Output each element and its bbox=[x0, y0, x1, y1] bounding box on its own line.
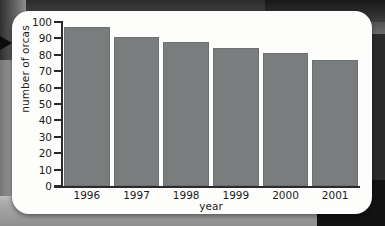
bar-1996[interactable] bbox=[64, 27, 110, 186]
y-tick-label: 30 bbox=[26, 132, 52, 142]
y-tick-label: 60 bbox=[26, 83, 52, 93]
x-axis-title: year bbox=[62, 200, 360, 212]
bar-slot bbox=[261, 22, 311, 186]
bar-slot bbox=[112, 22, 162, 186]
y-tick-label: 70 bbox=[26, 66, 52, 76]
bar-slot bbox=[211, 22, 261, 186]
y-tick-label: 80 bbox=[26, 50, 52, 60]
bar-1999[interactable] bbox=[213, 48, 259, 186]
bar-chart-card: number of orcas 1009080706050403020100 1… bbox=[12, 11, 372, 214]
bar-series bbox=[62, 22, 360, 186]
bar-1998[interactable] bbox=[163, 42, 209, 186]
y-tick-label: 90 bbox=[26, 33, 52, 43]
y-tick-label: 40 bbox=[26, 115, 52, 125]
right-arrow-icon bbox=[0, 36, 12, 50]
bar-slot bbox=[310, 22, 360, 186]
x-axis-line bbox=[54, 186, 360, 188]
bar-1997[interactable] bbox=[114, 37, 160, 186]
screenshot-root: number of orcas 1009080706050403020100 1… bbox=[0, 0, 385, 226]
y-tick-label: 100 bbox=[26, 17, 52, 27]
y-tick-label: 10 bbox=[26, 165, 52, 175]
bar-2001[interactable] bbox=[312, 60, 358, 186]
y-tick-label: 20 bbox=[26, 148, 52, 158]
bar-slot bbox=[62, 22, 112, 186]
y-axis-ticks: 1009080706050403020100 bbox=[12, 11, 52, 214]
chart-area: number of orcas 1009080706050403020100 1… bbox=[12, 11, 372, 214]
bar-slot bbox=[161, 22, 211, 186]
y-tick-label: 0 bbox=[26, 181, 52, 191]
plot-region bbox=[62, 22, 360, 186]
y-tick-label: 50 bbox=[26, 99, 52, 109]
bar-2000[interactable] bbox=[263, 53, 309, 186]
